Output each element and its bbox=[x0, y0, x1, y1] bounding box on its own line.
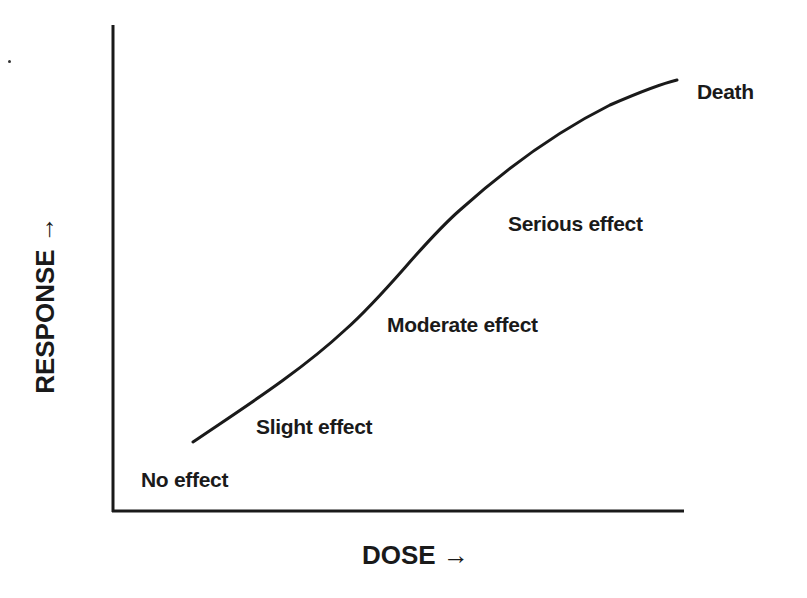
annotation-serious-effect: Serious effect bbox=[508, 212, 643, 236]
annotation-slight-effect: Slight effect bbox=[256, 415, 372, 439]
annotation-moderate-effect: Moderate effect bbox=[387, 313, 538, 337]
x-axis-label: DOSE → bbox=[362, 540, 469, 571]
annotation-death: Death bbox=[697, 80, 754, 104]
annotation-no-effect: No effect bbox=[141, 468, 228, 492]
y-axis-label: RESPONSE → bbox=[30, 216, 61, 394]
dose-response-curve bbox=[193, 80, 677, 442]
dose-response-plot bbox=[0, 0, 807, 598]
